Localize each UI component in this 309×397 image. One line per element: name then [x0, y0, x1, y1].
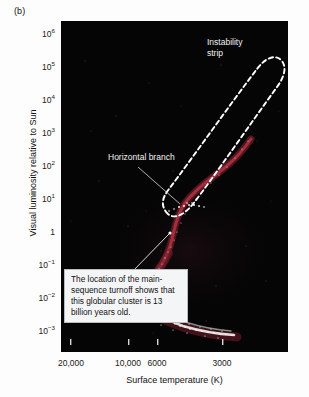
y-tick-label: 101 — [0, 195, 55, 204]
x-axis-title: Surface temperature (K) — [61, 375, 288, 385]
x-tick-label: 3000 — [213, 358, 232, 368]
main-sequence-turnoff-callout: The location of the main-sequence turnof… — [64, 269, 188, 323]
hr-diagram-figure: (b) Visual luminosity relative to Sun 10… — [0, 0, 309, 397]
x-tick-label: 10,000 — [115, 358, 141, 368]
y-tick-label: 103 — [0, 129, 55, 138]
horizontal-branch-label: Horizontal branch — [108, 152, 175, 163]
y-tick-label: 104 — [0, 96, 55, 105]
y-tick-label: 10−2 — [0, 294, 55, 303]
y-tick-label: 10−3 — [0, 327, 55, 336]
x-tick-label: 6000 — [148, 358, 167, 368]
y-tick-label: 1 — [0, 228, 55, 237]
y-tick-label: 105 — [0, 63, 55, 72]
y-tick-label: 106 — [0, 30, 55, 39]
panel-label: (b) — [14, 6, 25, 16]
y-tick-label: 10−1 — [0, 261, 55, 270]
x-tick-label: 20,000 — [58, 358, 84, 368]
instability-strip-label: Instability strip — [207, 37, 242, 58]
y-tick-label: 102 — [0, 162, 55, 171]
